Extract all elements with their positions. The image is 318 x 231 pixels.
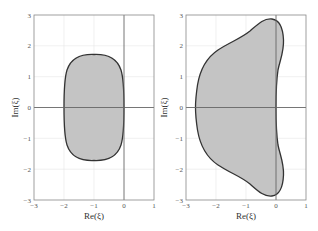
- svg-text:0: 0: [274, 202, 278, 210]
- svg-text:−2: −2: [24, 166, 32, 174]
- svg-text:−2: −2: [212, 202, 220, 210]
- left-plot: −3 −2 −1 0 1 3 2 1 0 −1 −2 −3 Re(ξ) Im(ξ…: [10, 12, 156, 222]
- right-xticks: −3 −2 −1 0 1: [182, 202, 308, 210]
- svg-text:3: 3: [28, 12, 32, 20]
- right-plot: −3 −2 −1 0 1 3 2 1 0 −1 −2 −3 Re(ξ) Im(ξ…: [159, 12, 308, 222]
- svg-text:−2: −2: [60, 202, 68, 210]
- left-xticks: −3 −2 −1 0 1: [30, 202, 156, 210]
- svg-text:−1: −1: [24, 135, 32, 143]
- svg-text:−1: −1: [90, 202, 98, 210]
- svg-text:−2: −2: [176, 166, 184, 174]
- right-xlabel: Re(ξ): [236, 211, 256, 221]
- right-yticks: 3 2 1 0 −1 −2 −3: [176, 12, 184, 205]
- svg-text:0: 0: [28, 104, 32, 112]
- left-yticks: 3 2 1 0 −1 −2 −3: [24, 12, 32, 205]
- svg-text:1: 1: [180, 73, 184, 81]
- svg-text:0: 0: [180, 104, 184, 112]
- svg-text:−3: −3: [24, 197, 32, 205]
- svg-text:−3: −3: [182, 202, 190, 210]
- svg-text:0: 0: [122, 202, 126, 210]
- svg-text:−1: −1: [176, 135, 184, 143]
- svg-text:1: 1: [304, 202, 308, 210]
- svg-text:−1: −1: [242, 202, 250, 210]
- svg-text:−3: −3: [176, 197, 184, 205]
- left-ylabel: Im(ξ): [10, 97, 20, 117]
- svg-text:−3: −3: [30, 202, 38, 210]
- left-xlabel: Re(ξ): [84, 211, 104, 221]
- svg-text:1: 1: [152, 202, 156, 210]
- right-ylabel: Im(ξ): [159, 97, 169, 117]
- svg-text:3: 3: [180, 12, 184, 20]
- figure: −3 −2 −1 0 1 3 2 1 0 −1 −2 −3 Re(ξ) Im(ξ…: [0, 0, 318, 231]
- svg-text:2: 2: [180, 42, 184, 50]
- svg-text:1: 1: [28, 73, 32, 81]
- svg-text:2: 2: [28, 42, 32, 50]
